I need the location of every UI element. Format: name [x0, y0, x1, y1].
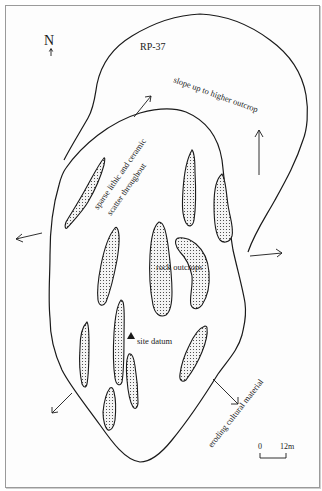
north-arrow: N	[44, 33, 54, 56]
scale-start-label: 0	[258, 442, 262, 451]
outcrop	[182, 150, 195, 226]
outcrop	[180, 326, 207, 381]
scale-bar: 0 12m	[258, 442, 295, 458]
slope-arrow-icon	[134, 96, 151, 117]
eroding-label: eroding cultural material	[206, 376, 266, 449]
direction-arrows	[16, 96, 282, 413]
up-arrow-icon	[255, 130, 263, 175]
west-arrow-icon	[16, 233, 42, 242]
scale-end-label: 12m	[280, 442, 295, 451]
site-id-label: RP-37	[140, 41, 166, 52]
outcrop	[126, 354, 138, 409]
site-map: N RP-37	[0, 0, 322, 491]
southeast-arrow-icon	[213, 379, 238, 404]
rock-outcrops	[65, 150, 232, 430]
outcrop	[214, 174, 233, 242]
outcrop	[98, 227, 119, 305]
slope-label: slope up to higher outcrop	[172, 74, 259, 114]
outcrop	[80, 322, 89, 387]
southwest-arrow-icon	[52, 393, 72, 413]
site-boundary	[49, 109, 246, 462]
site-datum-icon	[127, 332, 135, 339]
outcrop	[65, 158, 105, 229]
north-label: N	[44, 33, 54, 48]
outcrop	[176, 238, 210, 309]
site-datum-label: site datum	[137, 336, 173, 346]
outcrop	[103, 388, 116, 431]
outcrop	[113, 300, 124, 385]
east-arrow-icon	[250, 249, 282, 257]
rock-outcrops-label: rock outcrops	[156, 262, 203, 272]
scale-bar-line	[260, 453, 286, 458]
